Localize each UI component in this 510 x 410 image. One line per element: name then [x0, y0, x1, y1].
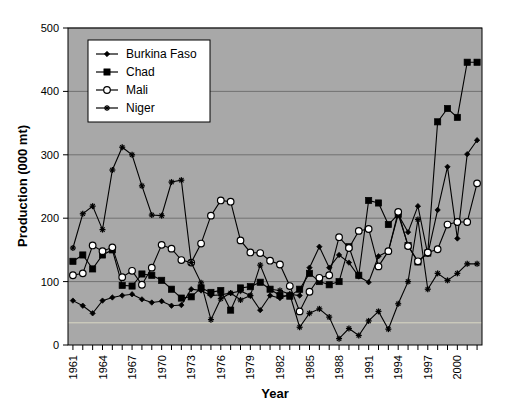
data-point-marker — [158, 242, 165, 249]
data-point-marker — [365, 226, 372, 233]
data-point-marker — [109, 244, 116, 251]
data-point-marker — [434, 246, 441, 253]
data-point-marker — [385, 221, 391, 227]
data-point-marker — [159, 277, 165, 283]
data-point-marker — [80, 211, 86, 217]
data-point-marker — [70, 258, 76, 264]
legend-label: Mali — [126, 83, 148, 97]
x-axis-title: Year — [261, 386, 288, 401]
data-point-marker — [99, 248, 106, 255]
legend-label: Burkina Faso — [126, 47, 197, 61]
data-point-marker — [375, 200, 381, 206]
data-point-marker — [238, 297, 244, 303]
data-point-marker — [296, 308, 303, 315]
x-tick-label: 1979 — [244, 355, 256, 379]
x-tick-label: 1964 — [97, 355, 109, 379]
x-tick-label: 1988 — [333, 355, 345, 379]
data-point-marker — [454, 114, 460, 120]
data-point-marker — [79, 270, 86, 277]
data-point-marker — [306, 288, 313, 295]
chart-legend: Burkina FasoChadMaliNiger — [88, 40, 210, 122]
data-point-marker — [100, 227, 106, 233]
data-point-marker — [425, 286, 431, 292]
data-point-marker — [336, 234, 343, 241]
data-point-marker — [356, 272, 362, 278]
data-point-marker — [139, 281, 146, 288]
data-point-marker — [119, 282, 125, 288]
data-point-marker — [129, 268, 136, 275]
data-point-marker — [415, 258, 422, 265]
x-tick-label: 1985 — [304, 355, 316, 379]
data-point-marker — [297, 324, 303, 330]
data-point-marker — [104, 69, 110, 75]
data-point-marker — [149, 212, 155, 218]
data-point-marker — [307, 310, 313, 316]
data-point-marker — [415, 216, 421, 222]
data-point-marker — [424, 249, 431, 256]
data-point-marker — [336, 279, 342, 285]
data-point-marker — [376, 308, 382, 314]
data-point-marker — [454, 270, 460, 276]
x-tick-label: 1970 — [156, 355, 168, 379]
data-point-marker — [385, 326, 391, 332]
x-tick-label: 1997 — [422, 355, 434, 379]
data-point-marker — [119, 274, 126, 281]
y-axis-title: Production (000 mt) — [15, 125, 30, 247]
data-point-marker — [70, 272, 77, 279]
data-point-marker — [454, 219, 461, 226]
y-tick-label: 400 — [41, 85, 59, 97]
data-point-marker — [474, 180, 481, 187]
data-point-marker — [444, 105, 450, 111]
data-point-marker — [247, 249, 254, 256]
data-point-marker — [104, 87, 111, 94]
data-point-marker — [90, 203, 96, 209]
data-point-marker — [326, 272, 333, 279]
data-point-marker — [178, 177, 184, 183]
x-tick-label: 1961 — [67, 355, 79, 379]
data-point-marker — [375, 263, 382, 270]
data-point-marker — [149, 272, 155, 278]
data-point-marker — [208, 317, 214, 323]
data-point-marker — [257, 262, 263, 268]
data-point-marker — [228, 307, 234, 313]
data-point-marker — [267, 286, 273, 292]
data-point-marker — [385, 248, 392, 255]
data-point-marker — [70, 245, 76, 251]
data-point-marker — [395, 301, 401, 307]
data-point-marker — [356, 332, 362, 338]
y-tick-label: 0 — [53, 339, 59, 351]
data-point-marker — [148, 264, 155, 271]
data-point-marker — [168, 245, 175, 252]
data-point-marker — [129, 152, 135, 158]
data-point-marker — [119, 144, 125, 150]
data-point-marker — [474, 59, 480, 65]
x-tick-label: 1967 — [126, 355, 138, 379]
legend-label: Niger — [126, 101, 155, 115]
data-point-marker — [257, 279, 263, 285]
data-point-marker — [277, 261, 284, 268]
data-point-marker — [286, 283, 293, 290]
data-point-marker — [316, 306, 322, 312]
data-point-marker — [395, 209, 402, 216]
x-tick-label: 1982 — [274, 355, 286, 379]
y-tick-label: 100 — [41, 276, 59, 288]
data-point-marker — [227, 198, 234, 205]
chart-container: 0100200300400500 19611964196719701973197… — [0, 0, 510, 410]
data-point-marker — [178, 295, 184, 301]
data-point-marker — [316, 274, 323, 281]
data-point-marker — [208, 289, 214, 295]
data-point-marker — [159, 213, 165, 219]
data-point-marker — [464, 219, 471, 226]
data-point-marker — [326, 314, 332, 320]
data-point-marker — [168, 286, 174, 292]
data-point-marker — [445, 277, 451, 283]
data-point-marker — [198, 280, 204, 286]
data-point-marker — [326, 282, 332, 288]
data-point-marker — [218, 296, 224, 302]
data-point-marker — [435, 270, 441, 276]
legend-label: Chad — [126, 65, 155, 79]
data-point-marker — [366, 318, 372, 324]
y-tick-label: 300 — [41, 149, 59, 161]
data-point-marker — [169, 179, 175, 185]
data-point-marker — [217, 197, 224, 204]
